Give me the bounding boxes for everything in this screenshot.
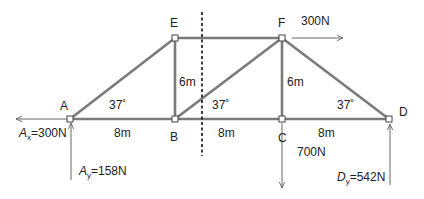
angle-at-d: 37˚ bbox=[337, 98, 354, 112]
node-c bbox=[279, 116, 285, 122]
dimension-ab: 8m bbox=[114, 126, 131, 140]
label-node-e: E bbox=[170, 16, 178, 30]
dimension-eb-height: 6m bbox=[179, 75, 196, 89]
forces bbox=[16, 38, 390, 188]
angle-at-a: 37˚ bbox=[109, 98, 126, 112]
reaction-ay-label: Ay=158N bbox=[78, 164, 127, 180]
load-f-horizontal-label: 300N bbox=[301, 14, 330, 28]
node-d bbox=[386, 116, 392, 122]
node-b bbox=[172, 116, 178, 122]
load-c-vertical-label: 700N bbox=[297, 145, 326, 159]
label-node-c: C bbox=[278, 131, 287, 145]
node-e bbox=[172, 35, 178, 41]
reaction-ax-label: Ax=300N bbox=[18, 126, 67, 142]
label-node-d: D bbox=[399, 105, 408, 119]
angle-at-b: 37˚ bbox=[212, 98, 229, 112]
dimension-bc: 8m bbox=[218, 126, 235, 140]
dimension-cd: 8m bbox=[318, 126, 335, 140]
label-node-b: B bbox=[170, 130, 178, 144]
node-a bbox=[67, 116, 73, 122]
reaction-dy-label: Dy=542N bbox=[337, 170, 385, 186]
dimension-fc-height: 6m bbox=[287, 75, 304, 89]
label-node-a: A bbox=[60, 99, 68, 113]
label-node-f: F bbox=[278, 16, 285, 30]
truss-diagram: A B C D E F 8m 8m 8m 6m 6m 37˚ 37˚ 37˚ 3… bbox=[0, 0, 424, 199]
node-f bbox=[279, 35, 285, 41]
